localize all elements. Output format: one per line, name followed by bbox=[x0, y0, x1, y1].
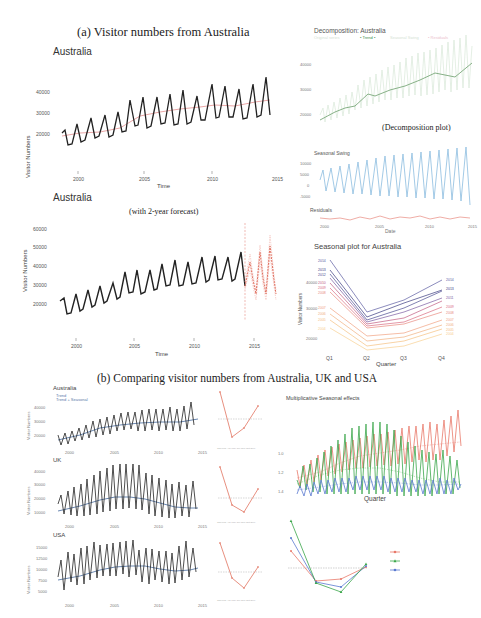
x-tick: 2010 bbox=[154, 603, 163, 608]
svg-text:Jan-Mar Apr-May Jul-Sep Oct-De: Jan-Mar Apr-May Jul-Sep Oct-Dec bbox=[217, 521, 256, 524]
section-a-title: (a) Visitor numbers from Australia bbox=[77, 25, 250, 40]
svg-text:2004: 2004 bbox=[446, 332, 454, 336]
x-tick: 2005 bbox=[110, 450, 119, 455]
svg-text:2013: 2013 bbox=[446, 287, 454, 291]
x-tick: 2010 bbox=[207, 176, 218, 182]
x-tick: 2010 bbox=[154, 450, 163, 455]
x-tick: 2015 bbox=[272, 176, 283, 182]
x-tick: 2015 bbox=[249, 343, 260, 349]
svg-text:2008: 2008 bbox=[318, 291, 326, 295]
legend-marker-icon bbox=[390, 558, 400, 564]
plot-area bbox=[0, 457, 210, 532]
x-axis-label: Quarter bbox=[364, 495, 386, 502]
svg-text:2007: 2007 bbox=[446, 318, 454, 322]
x-tick: 2005 bbox=[139, 176, 150, 182]
chart-compare-uk: UK Visitor Numbers 40000 30000 20000 100… bbox=[0, 457, 210, 532]
x-tick: 2010 bbox=[425, 224, 434, 229]
x-tick: 2015 bbox=[198, 524, 207, 529]
legend-item-usa bbox=[390, 566, 450, 574]
svg-text:2010: 2010 bbox=[318, 281, 326, 285]
plot-area bbox=[0, 190, 280, 360]
svg-text:2004: 2004 bbox=[318, 327, 326, 331]
x-tick: Q2 bbox=[363, 355, 370, 361]
x-axis-label: Time bbox=[155, 351, 168, 357]
plot-area bbox=[0, 385, 210, 457]
svg-text:2014: 2014 bbox=[318, 259, 326, 263]
svg-text:2014: 2014 bbox=[446, 278, 454, 282]
legend-marker-icon bbox=[390, 567, 400, 573]
x-tick: Q1 bbox=[326, 355, 333, 361]
x-tick: 2010 bbox=[189, 343, 200, 349]
chart-compare-all: Multiplicative Seasonal effects 1.0 1.2 … bbox=[260, 390, 481, 495]
plot-area: 2014 2013 2012 2010 2009 2008 2007 2006 … bbox=[290, 240, 481, 365]
svg-text:2009: 2009 bbox=[446, 305, 454, 309]
x-tick: 2005 bbox=[110, 524, 119, 529]
chart-decomposition: Decomposition: Australia Original series… bbox=[290, 20, 481, 240]
plot-area bbox=[0, 532, 210, 612]
chart-compare-australia: Australia Trend Trend + Seasonal Visitor… bbox=[0, 385, 210, 457]
plot-area bbox=[260, 390, 481, 505]
chart-compare-usa: USA Visitor Numbers 15000 12500 10000 75… bbox=[0, 532, 210, 612]
x-axis-label: Quarter bbox=[376, 361, 396, 367]
legend-item-australia bbox=[390, 548, 450, 556]
x-axis-label: Date bbox=[385, 228, 396, 234]
x-tick: 2015 bbox=[198, 603, 207, 608]
svg-text:2006: 2006 bbox=[318, 312, 326, 316]
svg-text:2011: 2011 bbox=[446, 296, 454, 300]
x-tick: Q3 bbox=[400, 355, 407, 361]
residuals-plot bbox=[290, 20, 481, 240]
legend bbox=[390, 548, 450, 578]
svg-text:2008: 2008 bbox=[446, 311, 454, 315]
svg-text:2006: 2006 bbox=[446, 323, 454, 327]
chart-multiplicative-seasonal bbox=[260, 505, 481, 618]
svg-text:2009: 2009 bbox=[318, 286, 326, 290]
svg-text:2007: 2007 bbox=[318, 306, 326, 310]
chart-seasonal-plot: Seasonal plot for Australia Visitor Numb… bbox=[290, 240, 481, 365]
x-tick: 2005 bbox=[110, 603, 119, 608]
chart-small-seasonal-effects: Jan-Mar Apr-May Jul-Sep Oct-Dec Jan-Mar … bbox=[208, 385, 268, 610]
x-tick: 2005 bbox=[129, 343, 140, 349]
x-tick: 2000 bbox=[71, 343, 82, 349]
x-tick: 2000 bbox=[320, 224, 329, 229]
legend-marker-icon bbox=[390, 549, 400, 555]
x-tick: 2000 bbox=[65, 450, 74, 455]
svg-text:2012: 2012 bbox=[318, 273, 326, 277]
x-tick: Q4 bbox=[438, 355, 445, 361]
x-tick: 2005 bbox=[375, 224, 384, 229]
x-tick: 2010 bbox=[154, 524, 163, 529]
x-tick: 2000 bbox=[65, 524, 74, 529]
section-b-title: (b) Comparing visitor numbers from Austr… bbox=[97, 372, 377, 384]
x-axis-label: Time bbox=[157, 183, 170, 189]
svg-text:Jan-Mar Apr-May Jul-Sep Oct-De: Jan-Mar Apr-May Jul-Sep Oct-Dec bbox=[217, 447, 256, 450]
plot-area bbox=[0, 40, 280, 190]
x-tick: 2000 bbox=[73, 176, 84, 182]
svg-text:2013: 2013 bbox=[318, 268, 326, 272]
x-tick: 2015 bbox=[198, 450, 207, 455]
x-tick: 2015 bbox=[468, 224, 477, 229]
x-tick: 2000 bbox=[65, 603, 74, 608]
chart-australia-trend: Australia Visitor Numbers 40000 30000 20… bbox=[0, 40, 280, 190]
chart-australia-forecast: Australia (with 2-year forecast) Visitor… bbox=[0, 190, 280, 360]
svg-text:Jan-Mar Apr-May Jul-Sep Oct-De: Jan-Mar Apr-May Jul-Sep Oct-Dec bbox=[217, 599, 256, 602]
legend-item-uk bbox=[390, 557, 450, 565]
svg-text:2005: 2005 bbox=[318, 318, 326, 322]
